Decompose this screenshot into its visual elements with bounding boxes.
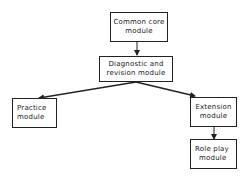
- extension-module-box: Extension module: [190, 97, 237, 127]
- node-label-line1: Diagnostic and: [108, 60, 163, 69]
- node-label-line1: Practice: [17, 104, 47, 113]
- node-label-line1: Common core: [113, 18, 164, 27]
- practice-module-box: Practice module: [12, 98, 57, 128]
- node-label-line2: module: [200, 112, 227, 121]
- node-label-line2: module: [17, 113, 44, 122]
- diagnostic-revision-module-box: Diagnostic and revision module: [99, 56, 173, 82]
- node-label-line1: Extension: [195, 103, 231, 112]
- common-core-module-box: Common core module: [110, 12, 168, 42]
- node-label-line2: revision module: [107, 69, 166, 78]
- role-play-module-box: Role play module: [190, 139, 237, 169]
- arrow-diagnostic-to-extension: [136, 82, 195, 96]
- arrow-diagnostic-to-practice: [39, 82, 136, 98]
- node-label-line1: Role play: [195, 145, 229, 154]
- flow-diagram: Common core module Diagnostic and revisi…: [0, 0, 248, 178]
- node-label-line2: module: [125, 27, 152, 36]
- node-label-line2: module: [195, 154, 226, 163]
